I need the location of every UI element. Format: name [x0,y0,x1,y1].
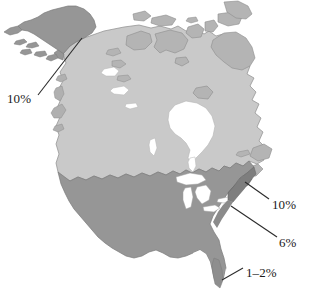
north-america-map-figure: 10% 10% 6% 1–2% [0,0,310,301]
annotation-label-alaska: 10% [7,92,31,105]
annotation-label-midatlantic: 6% [279,236,297,249]
annotation-label-northeast: 10% [272,198,296,211]
north-america-map [0,0,310,301]
annotation-label-florida: 1–2% [246,266,277,279]
